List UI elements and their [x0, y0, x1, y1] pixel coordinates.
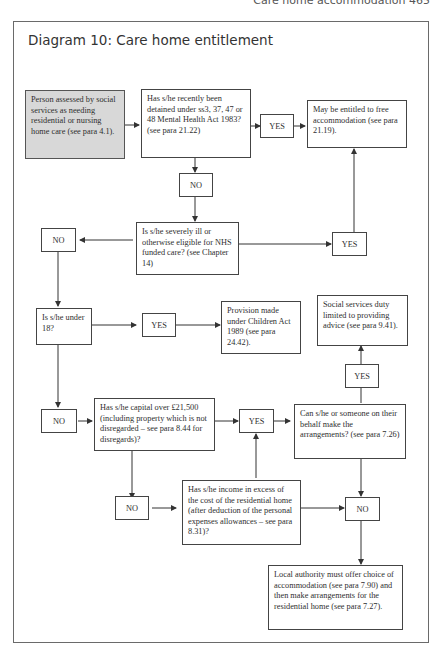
- label-yes-detained: YES: [260, 114, 294, 138]
- label-yes-under18: YES: [142, 313, 176, 337]
- node-capital-question: Has s/he capital over £21,500 (including…: [94, 398, 215, 451]
- label-no-nhs: NO: [41, 228, 76, 252]
- label-no-arrangements: NO: [345, 497, 380, 521]
- label-yes-arrangements: YES: [345, 364, 379, 388]
- label-no-detained: NO: [179, 173, 213, 197]
- node-local-authority: Local authority must offer choice of acc…: [268, 565, 403, 630]
- node-children-act: Provision made under Children Act 1989 (…: [221, 301, 301, 354]
- label-no-capital: NO: [115, 496, 149, 520]
- node-advice-only: Social services duty limited to providin…: [317, 295, 408, 346]
- node-free-accommodation: May be entitled to free accommodation (s…: [307, 100, 407, 148]
- label-yes-nhs: YES: [332, 232, 367, 256]
- diagram-title: Diagram 10: Care home entitlement: [28, 32, 273, 48]
- label-yes-capital: YES: [239, 409, 274, 433]
- node-start: Person assessed by social services as ne…: [25, 90, 125, 159]
- node-under18-question: Is s/he under 18?: [36, 308, 92, 345]
- node-nhs-question: Is s/he severely ill or otherwise eligib…: [136, 222, 239, 275]
- node-arrangements-question: Can s/he or someone on their behalf make…: [294, 404, 406, 459]
- label-no-under18: NO: [41, 409, 77, 433]
- running-head: Care home accommodation 465: [253, 0, 430, 7]
- node-detained-question: Has s/he recently been detained under ss…: [141, 89, 251, 158]
- node-income-question: Has s/he income in excess of the cost of…: [182, 480, 301, 545]
